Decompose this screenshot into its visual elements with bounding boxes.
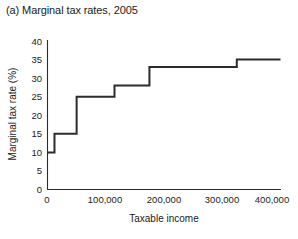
x-tick-label: 400,000 (255, 194, 289, 205)
x-tick-label: 200,000 (147, 194, 181, 205)
y-tick-label: 10 (31, 147, 42, 158)
x-tick-label: 300,000 (205, 194, 239, 205)
marginal-tax-rate-step-chart: 40 35 30 25 20 15 10 5 0 0 100,000 200,0… (0, 0, 298, 239)
y-tick-label: 5 (37, 165, 42, 176)
y-tick-label: 0 (37, 184, 42, 195)
marginal-tax-rate-step-line (48, 60, 281, 153)
figure-panel: (a) Marginal tax rates, 2005 40 35 30 25… (0, 0, 298, 239)
x-tick-label: 100,000 (88, 194, 122, 205)
y-tick-label: 30 (31, 73, 42, 84)
y-tick-label: 20 (31, 110, 42, 121)
y-tick-label: 15 (31, 128, 42, 139)
y-tick-label: 35 (31, 54, 42, 65)
y-tick-label: 25 (31, 91, 42, 102)
y-tick-label: 40 (31, 36, 42, 47)
x-tick-label: 0 (44, 194, 49, 205)
x-axis-title: Taxable income (129, 213, 199, 224)
y-axis-title: Marginal tax rate (%) (7, 68, 18, 161)
